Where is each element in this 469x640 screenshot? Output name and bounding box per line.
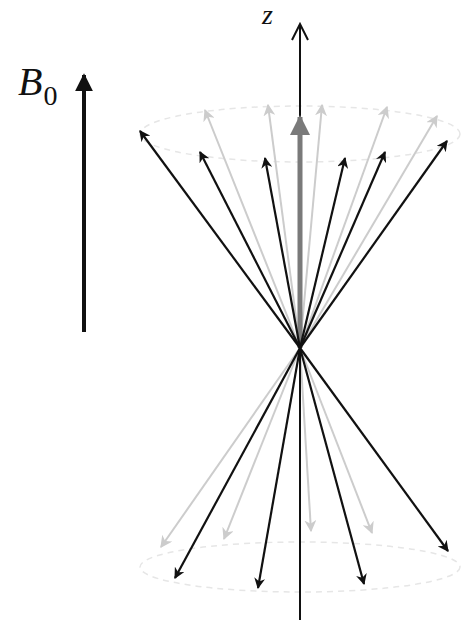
spin-arrow-back (224, 348, 300, 539)
spin-precession-diagram (0, 0, 469, 640)
spin-arrow-back (300, 105, 322, 348)
spin-arrow-front (265, 158, 300, 348)
upper-back-spin-arrows (205, 105, 437, 348)
spin-arrow-back (161, 348, 300, 547)
spin-arrow-front (300, 158, 345, 348)
b0-label: B0 (18, 62, 57, 116)
b0-label-subscript: 0 (43, 80, 57, 111)
spin-arrow-front (300, 152, 385, 348)
spin-arrow-back (300, 348, 372, 533)
lower-back-spin-arrows (161, 348, 372, 547)
spin-arrow-front (200, 152, 300, 348)
b0-label-main: B (18, 59, 42, 104)
spin-arrow-front (258, 348, 300, 588)
upper-front-spin-arrows (140, 131, 447, 348)
spin-arrow-back (300, 107, 387, 348)
spin-arrow-front (300, 141, 447, 348)
spin-arrow-back (300, 348, 311, 531)
spin-arrow-front (300, 348, 448, 551)
z-axis-label: z (262, 0, 273, 30)
spin-arrow-front (300, 348, 364, 584)
spin-arrow-back (205, 110, 300, 348)
spin-arrow-back (300, 116, 437, 348)
